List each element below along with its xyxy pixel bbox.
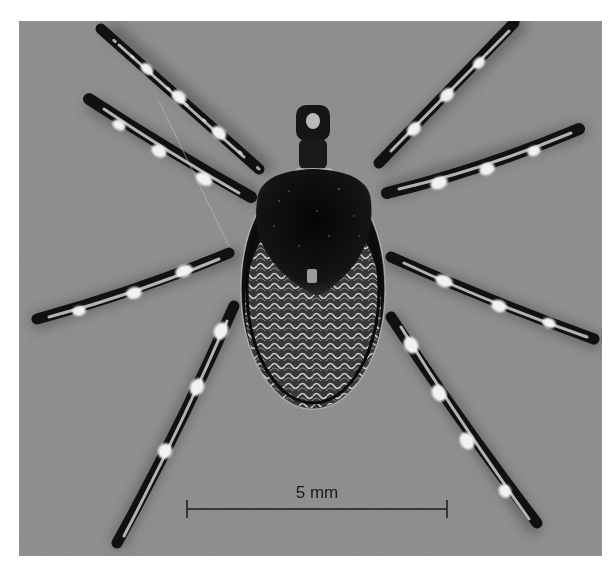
- scale-bar-label: 5 mm: [296, 483, 339, 503]
- specimen-photo: 5 mm: [19, 21, 602, 556]
- scale-bar: [19, 21, 602, 556]
